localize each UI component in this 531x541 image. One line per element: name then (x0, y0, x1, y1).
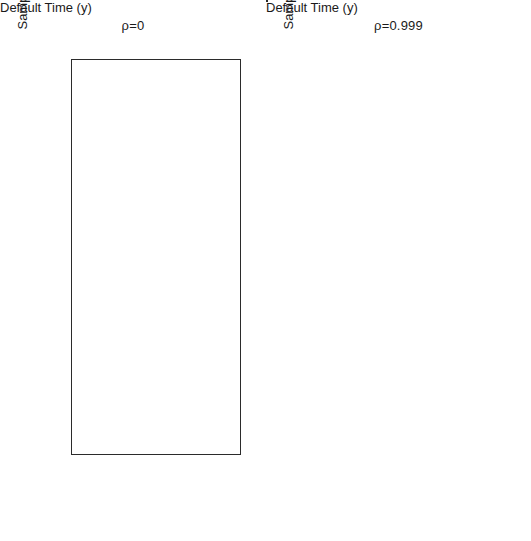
panel-rho-0: ρ=0 Sample Default Time (y) (0, 0, 266, 541)
x-axis-title: Default Time (y) (266, 0, 358, 15)
panel-title: ρ=0 (0, 18, 266, 33)
figure-canvas: ρ=0 Sample Default Time (y) ρ=0.999 Samp… (0, 0, 531, 541)
panel-title: ρ=0.999 (266, 18, 531, 33)
x-axis-title: Default Time (y) (0, 0, 92, 15)
plot-area (71, 59, 241, 455)
panel-rho-0999: ρ=0.999 Sample Default Time (y) (266, 0, 531, 541)
